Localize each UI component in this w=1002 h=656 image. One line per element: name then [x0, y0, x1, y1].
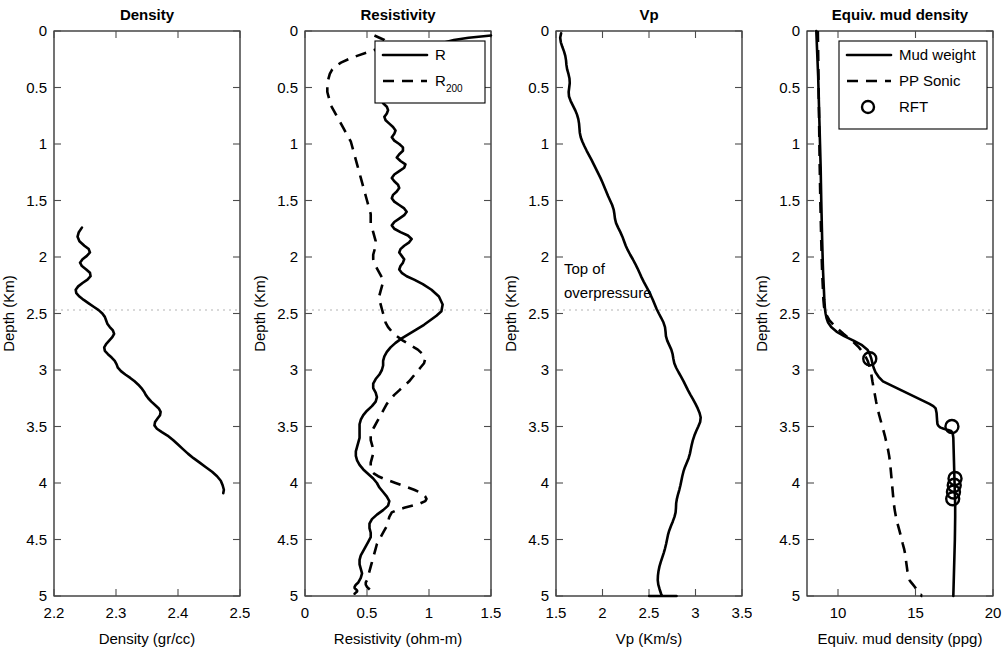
x-tick-label: 2.4 [168, 604, 189, 621]
y-axis-label: Depth (Km) [0, 275, 17, 352]
y-tick-label: 4.5 [277, 531, 298, 548]
y-tick-label: 0.5 [779, 79, 800, 96]
x-axis-label: Vp (Km/s) [616, 630, 683, 647]
curve-r200 [327, 36, 426, 595]
x-tick-label: 0 [301, 604, 309, 621]
legend-label-subscript: 200 [446, 83, 463, 94]
y-tick-label: 2 [290, 248, 298, 265]
panel-equiv-mud-density: Equiv. mud density00.511.522.533.544.55D… [753, 0, 1002, 656]
y-tick-label: 3 [290, 361, 298, 378]
plot-frame [54, 31, 240, 596]
y-tick-label: 2 [39, 248, 47, 265]
x-axis-label: Density (gr/cc) [99, 630, 196, 647]
y-tick-label: 5 [290, 587, 298, 604]
plot-frame [305, 31, 491, 596]
y-tick-label: 5 [792, 587, 800, 604]
well-log-figure: Density00.511.522.533.544.55Depth (Km)2.… [0, 0, 1002, 656]
y-tick-label: 2 [541, 248, 549, 265]
x-tick-label: 20 [985, 604, 1002, 621]
y-tick-label: 3 [39, 361, 47, 378]
x-axis-label: Resistivity (ohm-m) [334, 630, 462, 647]
overpressure-annotation-line1: Top of [564, 260, 606, 277]
y-tick-label: 4.5 [528, 531, 549, 548]
y-tick-label: 4 [792, 474, 800, 491]
y-tick-label: 0.5 [26, 79, 47, 96]
y-tick-label: 4 [39, 474, 47, 491]
y-tick-label: 0 [792, 22, 800, 39]
y-tick-label: 3 [792, 361, 800, 378]
panel-density: Density00.511.522.533.544.55Depth (Km)2.… [0, 0, 250, 656]
y-tick-label: 0.5 [528, 79, 549, 96]
y-tick-label: 3 [541, 361, 549, 378]
legend-label: PP Sonic [899, 72, 961, 89]
y-tick-label: 1 [39, 135, 47, 152]
legend-label: RFT [899, 98, 928, 115]
y-tick-label: 1 [792, 135, 800, 152]
y-axis-label: Depth (Km) [502, 275, 519, 352]
plot-3: Vp00.511.522.533.544.55Depth (Km)1.522.5… [502, 0, 752, 656]
panel-resistivity: Resistivity00.511.522.533.544.55Depth (K… [251, 0, 501, 656]
y-tick-label: 0.5 [277, 79, 298, 96]
y-tick-label: 2.5 [26, 305, 47, 322]
plot-title: Equiv. mud density [832, 6, 969, 23]
x-tick-label: 3 [691, 604, 699, 621]
y-tick-label: 3.5 [779, 418, 800, 435]
y-tick-label: 2 [792, 248, 800, 265]
y-tick-label: 2.5 [528, 305, 549, 322]
x-tick-label: 3.5 [732, 604, 752, 621]
y-tick-label: 0 [290, 22, 298, 39]
y-tick-label: 3.5 [277, 418, 298, 435]
x-tick-label: 1 [425, 604, 433, 621]
x-tick-label: 2.5 [230, 604, 250, 621]
y-tick-label: 1.5 [277, 192, 298, 209]
y-axis-label: Depth (Km) [251, 275, 268, 352]
plot-2: Resistivity00.511.522.533.544.55Depth (K… [251, 0, 501, 656]
plot-1: Density00.511.522.533.544.55Depth (Km)2.… [0, 0, 250, 656]
y-tick-label: 5 [39, 587, 47, 604]
y-tick-label: 3.5 [26, 418, 47, 435]
x-tick-label: 2 [598, 604, 606, 621]
curve-density [76, 228, 224, 494]
y-tick-label: 1 [290, 135, 298, 152]
curve-vp [560, 33, 701, 596]
plot-frame [556, 31, 742, 596]
x-tick-label: 2.2 [44, 604, 65, 621]
panel-vp: Vp00.511.522.533.544.55Depth (Km)1.522.5… [502, 0, 752, 656]
x-axis-label: Equiv. mud density (ppg) [818, 630, 983, 647]
x-tick-label: 2.3 [106, 604, 127, 621]
x-tick-label: 1.5 [546, 604, 567, 621]
plot-title: Vp [639, 6, 658, 23]
y-tick-label: 1.5 [26, 192, 47, 209]
legend-label: R [435, 72, 446, 89]
y-tick-label: 1 [541, 135, 549, 152]
legend-label: R [435, 46, 446, 63]
overpressure-annotation-line2: overpressure [564, 284, 652, 301]
x-tick-label: 0.5 [357, 604, 378, 621]
y-tick-label: 4.5 [779, 531, 800, 548]
plot-title: Density [120, 6, 175, 23]
y-tick-label: 2.5 [277, 305, 298, 322]
x-tick-label: 2.5 [639, 604, 660, 621]
x-tick-label: 10 [830, 604, 847, 621]
y-tick-label: 4 [290, 474, 298, 491]
y-tick-label: 4 [541, 474, 549, 491]
y-tick-label: 1.5 [528, 192, 549, 209]
legend-label: Mud weight [899, 46, 977, 63]
y-tick-label: 0 [39, 22, 47, 39]
x-tick-label: 1.5 [481, 604, 501, 621]
y-tick-label: 4.5 [26, 531, 47, 548]
y-axis-label: Depth (Km) [753, 275, 770, 352]
y-tick-label: 0 [541, 22, 549, 39]
y-tick-label: 5 [541, 587, 549, 604]
y-tick-label: 3.5 [528, 418, 549, 435]
y-tick-label: 1.5 [779, 192, 800, 209]
curve-r [355, 36, 491, 594]
legend-box [375, 41, 485, 103]
plot-4: Equiv. mud density00.511.522.533.544.55D… [753, 0, 1002, 656]
plot-title: Resistivity [360, 6, 436, 23]
x-tick-label: 15 [907, 604, 924, 621]
y-tick-label: 2.5 [779, 305, 800, 322]
